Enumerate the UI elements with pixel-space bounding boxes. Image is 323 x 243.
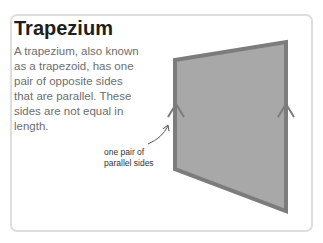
trapezium-shape — [175, 42, 286, 211]
trapezium-figure — [0, 0, 323, 243]
annotation-arrow-icon — [148, 126, 168, 144]
annotation-line-2: parallel sides — [104, 158, 154, 169]
annotation-line-1: one pair of — [104, 147, 154, 158]
diagram-stage: Trapezium A trapezium, also known as a t… — [0, 0, 323, 243]
parallel-sides-annotation: one pair of parallel sides — [104, 147, 154, 169]
